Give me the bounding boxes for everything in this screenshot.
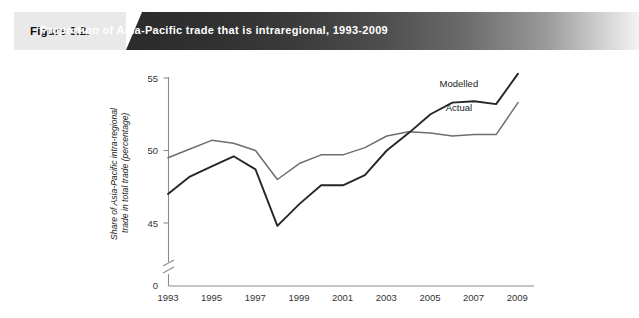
figure-title-text: Proportion of Asia-Pacific trade that is… bbox=[40, 24, 388, 36]
series-label-modelled: Modelled bbox=[440, 78, 479, 89]
y-axis-ticks: 55 50 45 0 bbox=[147, 73, 168, 292]
y-tick-label-55: 55 bbox=[147, 73, 158, 84]
y-axis-title-line1: Share of Asia-Pacific intra-regional bbox=[109, 107, 119, 240]
x-tick-label-2005: 2005 bbox=[419, 292, 440, 303]
series-line-modelled bbox=[168, 74, 518, 226]
y-tick-label-50: 50 bbox=[147, 145, 158, 156]
x-tick-label-2009: 2009 bbox=[507, 292, 528, 303]
line-chart: Share of Asia-Pacific intra-regional tra… bbox=[0, 55, 639, 318]
y-tick-label-0: 0 bbox=[153, 280, 158, 291]
figure-banner: Figure 3.2. Proportion of Asia-Pacific t… bbox=[0, 12, 639, 52]
axes bbox=[163, 77, 534, 286]
series-line-actual bbox=[168, 103, 518, 180]
y-tick-label-45: 45 bbox=[147, 218, 158, 229]
x-tick-label-1993: 1993 bbox=[157, 292, 178, 303]
x-tick-label-1995: 1995 bbox=[201, 292, 222, 303]
y-axis-title-line2: trade in total trade (percentage) bbox=[120, 112, 130, 233]
x-tick-label-2001: 2001 bbox=[332, 292, 353, 303]
x-axis-ticks: 1993 1995 1997 1999 2001 2003 2005 2007 … bbox=[157, 292, 527, 303]
x-tick-label-2007: 2007 bbox=[463, 292, 484, 303]
x-tick-label-1999: 1999 bbox=[288, 292, 309, 303]
x-tick-label-1997: 1997 bbox=[245, 292, 266, 303]
chart-container: Share of Asia-Pacific intra-regional tra… bbox=[0, 55, 639, 318]
y-axis-title: Share of Asia-Pacific intra-regional tra… bbox=[109, 107, 130, 240]
x-tick-label-2003: 2003 bbox=[376, 292, 397, 303]
series-label-actual: Actual bbox=[446, 102, 472, 113]
